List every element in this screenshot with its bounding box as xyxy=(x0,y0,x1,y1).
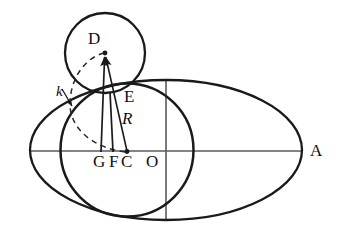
label-k: k xyxy=(56,84,63,99)
geometry-figure: D k E R G F C O A xyxy=(0,0,340,244)
segment-G-D xyxy=(101,57,105,152)
label-R: R xyxy=(122,110,132,127)
segment-F-D xyxy=(110,92,113,152)
label-C: C xyxy=(121,153,132,170)
label-A: A xyxy=(310,142,322,159)
point-D-dot xyxy=(103,51,108,56)
geometry-canvas xyxy=(0,0,340,244)
label-E: E xyxy=(124,88,134,105)
dashed-curve-k xyxy=(70,53,126,152)
label-G: G xyxy=(93,153,105,170)
label-F: F xyxy=(109,153,118,170)
label-D: D xyxy=(88,30,100,47)
label-O: O xyxy=(146,153,158,170)
